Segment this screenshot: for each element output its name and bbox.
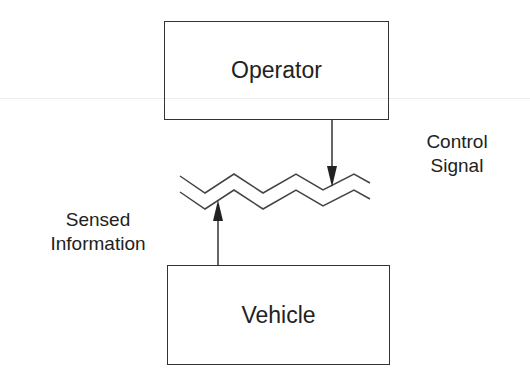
sensed-information-label-line1: Sensed	[28, 208, 168, 232]
sensed-information-arrow	[213, 200, 223, 265]
zigzag-line-bottom	[180, 190, 370, 209]
connectors	[0, 0, 530, 387]
control-signal-label-line1: Control	[412, 130, 502, 154]
communication-channel-zigzag	[180, 174, 370, 209]
sensed-information-label: Sensed Information	[28, 208, 168, 256]
zigzag-line-top	[180, 174, 370, 193]
control-signal-arrow	[327, 120, 337, 187]
sensed-information-label-line2: Information	[28, 232, 168, 256]
control-signal-label: Control Signal	[412, 130, 502, 178]
control-signal-label-line2: Signal	[412, 154, 502, 178]
